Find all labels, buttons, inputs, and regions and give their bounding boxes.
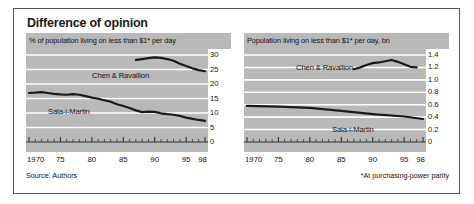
panel-right-x-axis-labels: 1970758085909598	[244, 154, 426, 166]
panel-left-y-axis-labels: 051015202530	[210, 49, 231, 152]
x-axis-tick-label: 80	[305, 154, 314, 165]
ppp-footnote: *At purchasing-power parity	[361, 171, 449, 180]
series-label-chen-ravallion-left: Chen & Ravallion	[92, 71, 149, 80]
x-axis-tick-label: 98	[416, 154, 425, 165]
panel-right-plot: 00.20.40.60.81.01.21.4 1970758085909598 …	[244, 49, 449, 166]
x-axis-tick-label: 90	[368, 154, 377, 165]
chart-figure: Difference of opinion % of population li…	[13, 8, 460, 194]
chart-panels: % of population living on less than $1* …	[26, 33, 449, 166]
x-axis-tick-label: 90	[150, 154, 159, 165]
x-axis-tick-label: 95	[182, 154, 191, 165]
y-axis-tick-label: 0.8	[428, 88, 439, 96]
x-axis-tick-label: 98	[198, 154, 207, 165]
panel-left-plot: 051015202530 1970758085909598 Chen & Rav…	[26, 49, 231, 166]
panel-left-x-axis-labels: 1970758085909598	[26, 154, 208, 166]
x-axis-tick-label: 75	[56, 154, 65, 165]
x-axis-tick-label: 1970	[27, 154, 44, 165]
y-axis-tick-label: 20	[210, 80, 218, 88]
x-axis-tick-label: 75	[274, 154, 283, 165]
y-axis-tick-label: 30	[210, 51, 218, 59]
y-axis-tick-label: 0.4	[428, 113, 439, 121]
panel-left-subtitle: % of population living on less than $1* …	[26, 33, 231, 49]
y-axis-tick-label: 1.4	[428, 51, 439, 59]
x-axis-tick-label: 1970	[245, 154, 262, 165]
y-axis-tick-label: 0	[428, 138, 432, 146]
series-label-sala-i-martin-right: Sala-i-Martin	[332, 125, 374, 134]
x-axis-tick-label: 95	[400, 154, 409, 165]
y-axis-tick-label: 1.2	[428, 63, 439, 71]
chart-panel-right: Population living on less than $1* per d…	[244, 33, 449, 166]
y-axis-tick-label: 10	[210, 109, 218, 117]
y-axis-tick-label: 0	[210, 138, 214, 146]
y-axis-tick-label: 1.0	[428, 76, 439, 84]
y-axis-tick-label: 5	[210, 124, 214, 132]
chart-panel-left: % of population living on less than $1* …	[26, 33, 231, 166]
panel-left-plot-svg	[26, 49, 208, 152]
panel-right-subtitle: Population living on less than $1* per d…	[244, 33, 449, 49]
y-axis-tick-label: 25	[210, 66, 218, 74]
y-axis-tick-label: 0.2	[428, 126, 439, 134]
source-note: Source: Authors	[26, 171, 77, 180]
x-axis-tick-label: 85	[119, 154, 128, 165]
page-title: Difference of opinion	[27, 16, 148, 30]
x-axis-tick-label: 85	[337, 154, 346, 165]
y-axis-tick-label: 15	[210, 95, 218, 103]
series-label-chen-ravallion-right: Chen & Ravallion	[296, 63, 353, 72]
panel-right-y-axis-labels: 00.20.40.60.81.01.21.4	[428, 49, 449, 152]
chart-footer: Source: Authors *At purchasing-power par…	[26, 171, 449, 185]
x-axis-tick-label: 80	[87, 154, 96, 165]
series-label-sala-i-martin-left: Sala-i-Martin	[48, 107, 90, 116]
y-axis-tick-label: 0.6	[428, 101, 439, 109]
